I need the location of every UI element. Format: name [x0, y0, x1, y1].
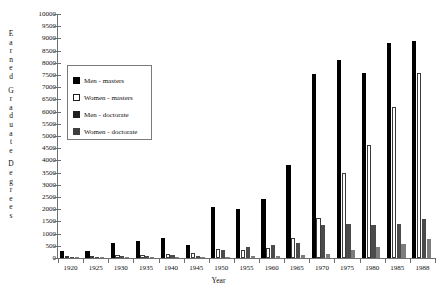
bar [276, 256, 280, 258]
bar [286, 165, 290, 258]
y-axis-tick-mark [54, 234, 61, 235]
y-axis-tick-label: 10000 [20, 11, 56, 18]
x-axis-tick-mark [385, 258, 386, 263]
bar [387, 43, 391, 258]
legend-label: Women - doctorate [84, 128, 137, 136]
y-axis-tick-label: 8000 [20, 59, 56, 66]
y-axis-tick-label: 7000 [20, 84, 56, 91]
y-axis-tick-labels: 1000095009000850080007500700065006000550… [20, 0, 56, 292]
y-axis-tick-mark [54, 63, 61, 64]
bar [362, 73, 366, 258]
bar [125, 257, 129, 258]
bar [271, 245, 275, 258]
x-axis-tick-mark [159, 258, 160, 263]
bar [70, 257, 74, 258]
bar-group [337, 14, 356, 258]
y-axis-tick-label: 3000 [20, 181, 56, 188]
y-axis-title: EarnedGraduateDegrees [4, 30, 18, 225]
x-axis-tick-mark [184, 258, 185, 263]
bar [211, 207, 215, 258]
bar-group [261, 14, 280, 258]
bar-group [236, 14, 255, 258]
y-axis-tick-label: 4000 [20, 157, 56, 164]
bar [351, 250, 355, 258]
bar [170, 255, 174, 258]
x-axis-tick-mark [435, 258, 436, 263]
bar [316, 218, 320, 258]
bar [342, 173, 346, 258]
bar [65, 256, 69, 258]
y-axis-tick-label: 3500 [20, 169, 56, 176]
x-axis-tick-mark [410, 258, 411, 263]
y-axis-tick-label: 9000 [20, 35, 56, 42]
bar [371, 225, 375, 258]
y-axis-tick-mark [54, 185, 61, 186]
legend-swatch-icon [73, 77, 80, 84]
bar [251, 256, 255, 258]
bar [261, 199, 265, 258]
bar-group [211, 14, 230, 258]
legend-label: Men - masters [84, 77, 124, 85]
x-axis-tick-label: 1988 [402, 264, 437, 272]
bar [312, 74, 316, 258]
legend-item: Men - masters [73, 72, 146, 89]
x-axis-tick-mark [209, 258, 210, 263]
bar [301, 255, 305, 258]
bar [321, 225, 325, 258]
y-axis-tick-mark [54, 26, 61, 27]
y-axis-tick-mark [54, 221, 61, 222]
y-axis-tick-mark [54, 87, 61, 88]
bar-group [387, 14, 406, 258]
bar [140, 255, 144, 258]
y-axis-title-word: Degrees [4, 160, 18, 220]
legend-swatch-icon [73, 128, 80, 135]
bar [241, 250, 245, 258]
x-axis-tick-mark [360, 258, 361, 263]
bar [422, 219, 426, 258]
bar [161, 238, 165, 258]
bar [221, 250, 225, 258]
y-axis-tick-mark [54, 246, 61, 247]
x-axis-tick-mark [284, 258, 285, 263]
y-axis-tick-mark [54, 75, 61, 76]
bar-chart: EarnedGraduateDegrees 100009500900085008… [0, 0, 437, 292]
legend-swatch-icon [73, 94, 80, 101]
y-axis-tick-label: 500 [20, 242, 56, 249]
y-axis-tick-mark [54, 209, 61, 210]
bar [367, 145, 371, 258]
legend-label: Men - doctorate [84, 111, 129, 119]
y-axis-tick-mark [54, 197, 61, 198]
x-axis-tick-mark [309, 258, 310, 263]
y-axis-tick-label: 6000 [20, 108, 56, 115]
bar [90, 256, 94, 258]
y-axis-tick-label: 1500 [20, 218, 56, 225]
y-axis-title-letter: e [4, 147, 18, 156]
y-axis-tick-mark [54, 124, 61, 125]
bar [145, 256, 149, 258]
bar-group [161, 14, 180, 258]
bar [376, 247, 380, 258]
chart-legend: Men - mastersWomen - mastersMen - doctor… [67, 65, 152, 140]
bar [150, 257, 154, 258]
bar [397, 224, 401, 258]
bar [326, 254, 330, 258]
y-axis-tick-label: 4500 [20, 145, 56, 152]
y-axis-tick-mark [54, 38, 61, 39]
bar [111, 243, 115, 258]
legend-item: Men - doctorate [73, 106, 146, 123]
y-axis-title-letter: s [4, 212, 18, 221]
x-axis-tick-mark [83, 258, 84, 263]
y-axis-tick-mark [54, 14, 61, 15]
bar [166, 254, 170, 258]
bar [175, 257, 179, 258]
y-axis-tick-label: 7500 [20, 72, 56, 79]
y-axis-tick-label: 2500 [20, 194, 56, 201]
x-axis-tick-labels: 1920192519301935194019451950195519601965… [0, 264, 437, 276]
bar-group [362, 14, 381, 258]
y-axis-title-word: Earned [4, 30, 18, 82]
bar [427, 239, 431, 258]
y-axis-tick-label: 8500 [20, 47, 56, 54]
y-axis-tick-label: 5500 [20, 120, 56, 127]
bar-group [412, 14, 431, 258]
bar [136, 241, 140, 258]
